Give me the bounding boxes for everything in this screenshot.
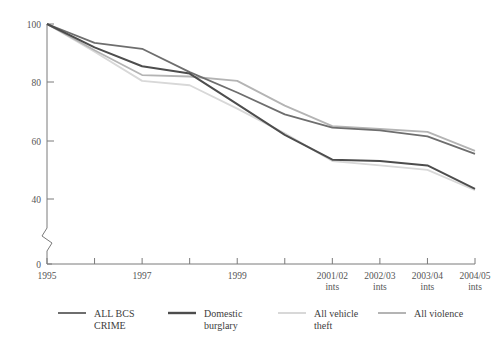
legend-label-1: Domestic: [204, 308, 243, 319]
x-tick-marks: [47, 258, 475, 264]
x-tick-label-0: 1995: [38, 271, 57, 281]
y-axis-break-symbol: [42, 228, 52, 251]
x-tick-label-6-line2: ints: [325, 282, 339, 292]
y-axis: 100 80 60 40 0: [27, 20, 54, 270]
legend-label-0-line2: CRIME: [94, 320, 126, 331]
legend-label-3: All violence: [414, 308, 464, 319]
x-tick-label-6: 2001/02: [317, 271, 348, 281]
crime-trend-chart: 100 80 60 40 0 1995199719992001/02ints20…: [0, 0, 496, 355]
x-axis: 1995199719992001/02ints2002/03ints2003/0…: [38, 258, 491, 292]
x-tick-label-4: 1999: [228, 271, 247, 281]
legend-label-2: All vehicle: [314, 308, 359, 319]
x-tick-label-9-line2: ints: [468, 282, 482, 292]
series-line-domestic-burglary: [47, 24, 475, 189]
x-tick-label-7: 2002/03: [364, 271, 395, 281]
legend-label-1-line2: burglary: [204, 320, 238, 331]
chart-legend: ALL BCSCRIMEDomesticburglaryAll vehiclet…: [58, 308, 464, 331]
series-line-all-violence: [47, 24, 475, 151]
y-tick-label-80: 80: [32, 78, 42, 88]
y-tick-label-100: 100: [27, 20, 42, 30]
x-tick-labels: 1995199719992001/02ints2002/03ints2003/0…: [38, 271, 491, 292]
y-tick-label-0: 0: [36, 260, 41, 270]
x-tick-label-2: 1997: [133, 271, 152, 281]
y-tick-label-60: 60: [32, 137, 42, 147]
x-tick-label-7-line2: ints: [373, 282, 387, 292]
chart-svg: 100 80 60 40 0 1995199719992001/02ints20…: [0, 0, 496, 355]
legend-label-0: ALL BCS: [94, 308, 134, 319]
x-tick-label-8-line2: ints: [421, 282, 435, 292]
x-tick-label-9: 2004/05: [459, 271, 490, 281]
y-tick-label-40: 40: [32, 195, 42, 205]
series-line-all-bcs-crime: [47, 24, 475, 154]
x-tick-label-8: 2003/04: [412, 271, 443, 281]
legend-label-2-line2: theft: [314, 320, 333, 331]
series-line-all-vehicle-theft: [47, 24, 475, 190]
series-lines: [47, 24, 475, 190]
